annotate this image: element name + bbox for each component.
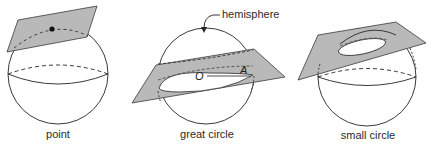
equator-front-small: [318, 77, 416, 86]
panel-small-circle: [298, 22, 426, 126]
panel-point: [7, 6, 108, 124]
caption-great-circle: great circle: [180, 129, 234, 140]
tangent-point: [49, 26, 54, 31]
caption-small-circle: small circle: [341, 130, 395, 141]
hemisphere-callout: hemisphere: [222, 9, 279, 20]
equator-back: [8, 65, 108, 74]
equator-front: [8, 74, 108, 84]
caption-point: point: [46, 129, 70, 140]
sphere-plane-intersections-diagram: [0, 0, 428, 145]
center-label-O: O: [195, 71, 204, 82]
arrow-head-icon: [201, 27, 207, 33]
panel-great-circle: [132, 15, 285, 124]
point-label-A: A: [240, 65, 247, 76]
hemisphere-leader: [204, 15, 220, 28]
